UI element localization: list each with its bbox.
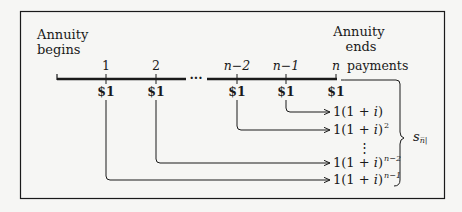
payment-n-minus-2: $1 bbox=[228, 84, 245, 99]
payment-2: $1 bbox=[147, 84, 164, 99]
accumulation-arrows bbox=[106, 100, 330, 180]
timeline-ellipsis: ··· bbox=[189, 70, 202, 85]
vertical-ellipsis: ⋮ bbox=[358, 140, 371, 155]
tick-label-n-minus-2: n−2 bbox=[224, 58, 251, 73]
payment-1: $1 bbox=[97, 84, 114, 99]
arrow-from-2 bbox=[156, 100, 330, 163]
tick-label-2: 2 bbox=[152, 58, 160, 73]
tick-label-n-minus-1: n−1 bbox=[273, 58, 299, 73]
payment-n-minus-1: $1 bbox=[277, 84, 294, 99]
tick-label-1: 1 bbox=[102, 58, 110, 73]
accumulation-term-2: 1(1 + i)2 bbox=[333, 121, 389, 137]
accumulation-term-n-minus-2: 1(1 + i)n−2 bbox=[333, 154, 401, 170]
arrow-from-n-minus-2 bbox=[237, 100, 330, 130]
tick-label-n: n payments bbox=[332, 58, 408, 73]
annuity-ends-label: Annuity ends bbox=[332, 24, 388, 54]
accumulation-term-n-minus-1: 1(1 + i)n−1 bbox=[333, 171, 401, 187]
payment-n: $1 bbox=[327, 84, 344, 99]
annuity-begins-label: Annuity begins bbox=[36, 27, 92, 57]
arrow-from-n-minus-1 bbox=[286, 100, 330, 112]
sum-label: sn̅| bbox=[413, 129, 428, 145]
annuity-accumulation-diagram: Annuity begins Annuity ends ··· 1 2 n−2 … bbox=[0, 0, 462, 212]
accumulation-term-1: 1(1 + i) bbox=[333, 104, 383, 119]
